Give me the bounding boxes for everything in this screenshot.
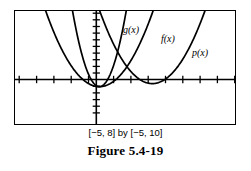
curve-label-p: p(x) [192,48,208,58]
plot-area: g(x) f(x) p(x) [14,10,236,125]
curve-label-g: g(x) [123,25,139,35]
viewing-window-caption: [−5, 8] by [−5, 10] [0,127,251,139]
figure-container: g(x) f(x) p(x) [−5, 8] by [−5, 10] Figur… [0,0,251,171]
figure-caption: Figure 5.4-19 [0,143,251,159]
curve-label-f: f(x) [161,34,175,44]
